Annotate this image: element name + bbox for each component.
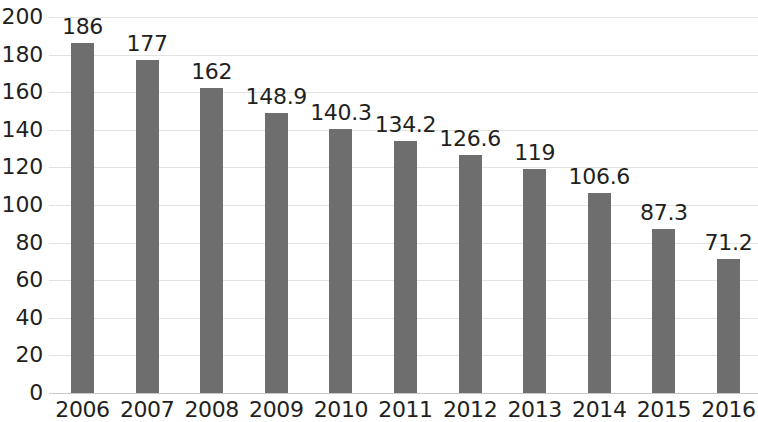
- x-axis-category-label: 2010: [308, 399, 373, 421]
- bar-group: 1192013: [502, 0, 567, 422]
- x-axis-category-label: 2012: [438, 399, 503, 421]
- bar-group: 140.32010: [308, 0, 373, 422]
- bar-value-label: 148.9: [244, 86, 309, 108]
- bar[interactable]: [71, 43, 94, 393]
- bar[interactable]: [329, 129, 352, 393]
- x-axis-category-label: 2006: [50, 399, 115, 421]
- bar-value-label: 71.2: [696, 232, 758, 254]
- bar-value-label: 126.6: [438, 128, 503, 150]
- bar-value-label: 140.3: [308, 102, 373, 124]
- x-axis-category-label: 2007: [115, 399, 180, 421]
- x-axis-category-label: 2015: [631, 399, 696, 421]
- bar-value-label: 119: [502, 142, 567, 164]
- bar-group: 1772007: [115, 0, 180, 422]
- bar[interactable]: [265, 113, 288, 393]
- bar[interactable]: [652, 229, 675, 393]
- bar-group: 1862006: [50, 0, 115, 422]
- bar[interactable]: [717, 259, 740, 393]
- x-axis-category-label: 2009: [244, 399, 309, 421]
- bar-value-label: 186: [50, 16, 115, 38]
- bar-group: 126.62012: [438, 0, 503, 422]
- bar-value-label: 162: [179, 61, 244, 83]
- bar-group: 71.22016: [696, 0, 758, 422]
- bar-group: 1622008: [179, 0, 244, 422]
- x-axis-category-label: 2008: [179, 399, 244, 421]
- bar[interactable]: [523, 169, 546, 393]
- bar-value-label: 106.6: [567, 166, 632, 188]
- x-axis-category-label: 2013: [502, 399, 567, 421]
- bar-group: 106.62014: [567, 0, 632, 422]
- bar[interactable]: [200, 88, 223, 393]
- x-axis-category-label: 2011: [373, 399, 438, 421]
- x-axis-category-label: 2014: [567, 399, 632, 421]
- bar-value-label: 134.2: [373, 114, 438, 136]
- bar[interactable]: [588, 193, 611, 393]
- bar-value-label: 87.3: [631, 202, 696, 224]
- x-axis-category-label: 2016: [696, 399, 758, 421]
- bar-chart: 200180160140120100806040200 186200617720…: [0, 0, 758, 422]
- bar[interactable]: [394, 141, 417, 393]
- bar[interactable]: [136, 60, 159, 393]
- bar-value-label: 177: [115, 33, 180, 55]
- bar-group: 148.92009: [244, 0, 309, 422]
- bar-group: 134.22011: [373, 0, 438, 422]
- bar-group: 87.32015: [631, 0, 696, 422]
- plot-area: 186200617720071622008148.92009140.320101…: [0, 0, 758, 422]
- bar[interactable]: [459, 155, 482, 393]
